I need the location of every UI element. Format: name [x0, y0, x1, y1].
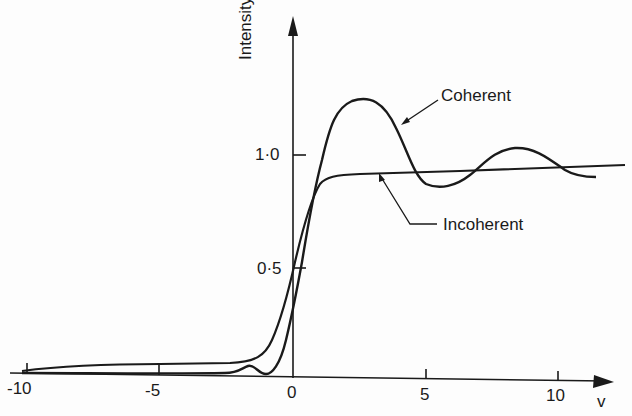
coherent-annotation: Coherent [441, 87, 511, 104]
y-tick-label: 1·0 [255, 146, 280, 163]
coherent-curve [22, 99, 596, 374]
chart-figure: Intensity v -10 -5 0 5 10 1·0 0·5 Cohere… [0, 0, 632, 416]
y-axis-label: Intensity [236, 0, 256, 60]
incoherent-curve [22, 165, 625, 371]
x-tick-label: 0 [287, 384, 296, 401]
coherent-arrowhead [401, 117, 410, 125]
x-tick-label: -5 [145, 382, 160, 399]
x-axis-arrow-icon [593, 375, 614, 388]
y-tick-label: 0·5 [257, 260, 282, 277]
y-axis-arrow-icon [288, 16, 298, 36]
coherent-leader [405, 100, 438, 122]
x-tick-label: -10 [7, 380, 32, 397]
chart-plot [0, 0, 632, 416]
incoherent-annotation: Incoherent [443, 216, 523, 233]
x-axis-label: v [597, 393, 606, 410]
x-tick-label: 5 [420, 386, 429, 403]
x-tick-label: 10 [546, 387, 565, 404]
